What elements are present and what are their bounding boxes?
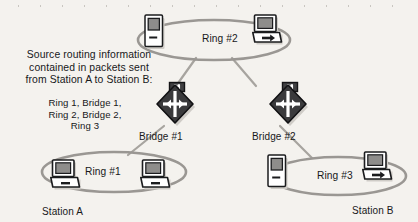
link-ring2-bridge2 <box>232 58 256 86</box>
bridge1-symbol <box>157 83 195 127</box>
ring1-second-computer <box>141 160 171 190</box>
station-b-label: Station B <box>352 205 393 217</box>
ring2-label: Ring #2 <box>202 33 238 45</box>
ring3-tower-computer <box>268 155 288 189</box>
route-descriptor-list: Ring 1, Bridge 1, Ring 2, Bridge 2, Ring… <box>22 97 148 132</box>
diagram-canvas: Source routing information contained in … <box>0 0 418 222</box>
bridge2-label: Bridge #2 <box>252 131 296 143</box>
ring2-tower-computer <box>145 15 165 49</box>
station-b-computer <box>363 152 393 182</box>
station-a-computer <box>51 160 81 190</box>
bridge1-label: Bridge #1 <box>139 131 183 143</box>
station-a-label: Station A <box>42 206 83 218</box>
source-routing-caption: Source routing information contained in … <box>14 49 164 87</box>
ring1-label: Ring #1 <box>85 166 121 178</box>
bridge2-symbol <box>270 83 308 127</box>
ring3-label: Ring #3 <box>317 170 353 182</box>
